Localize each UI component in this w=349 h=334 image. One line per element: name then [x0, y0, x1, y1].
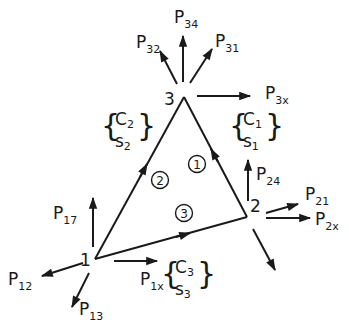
node-2-label: 2 — [250, 196, 261, 216]
force-P34-label: P34 — [174, 7, 198, 31]
side-2-c: C2 — [115, 109, 134, 131]
node-3-label: 3 — [164, 89, 175, 109]
brace-right-icon: } — [137, 108, 156, 143]
side-2-circle-label: 2 — [156, 174, 164, 188]
side-2-params: { C2 s2 } — [101, 108, 156, 153]
side-1-s: s1 — [243, 131, 259, 153]
brace-right-icon: } — [197, 256, 216, 291]
side-2-arrow-icon — [140, 164, 147, 177]
side-3-line — [95, 217, 247, 259]
force-P32-label: P32 — [136, 32, 160, 56]
force-P12-label: P12 — [8, 269, 32, 293]
force-P32-arrow-icon — [160, 51, 177, 84]
force-P2x-label: P2x — [315, 209, 339, 233]
node-1-label: 1 — [80, 250, 91, 270]
force-node2-down-arrow-icon — [253, 229, 275, 270]
element-force-diagram: 3 2 1 1 2 3 { C2 s2 } { C1 s1 } { C3 s3 … — [0, 0, 349, 334]
side-2-s: s2 — [115, 131, 131, 153]
side-3-s: s3 — [175, 279, 191, 301]
force-P13-label: P13 — [79, 299, 103, 323]
force-P24-label: P24 — [256, 164, 280, 188]
force-P31-arrow-icon — [190, 49, 212, 83]
diagram-svg: 3 2 1 1 2 3 { C2 s2 } { C1 s1 } { C3 s3 … — [0, 0, 349, 334]
brace-right-icon: } — [265, 108, 284, 143]
side-1-c: C1 — [243, 109, 262, 131]
force-P12-arrow-icon — [42, 263, 83, 276]
force-P21-label: P21 — [305, 184, 329, 208]
side-direction-arrows — [140, 149, 218, 237]
side-3-params: { C3 s3 } — [161, 256, 216, 301]
force-P17-label: P17 — [53, 203, 77, 227]
side-1-circle-label: 1 — [193, 158, 201, 172]
force-P21-arrow-icon — [266, 204, 298, 213]
side-1-params: { C1 s1 } — [229, 108, 284, 153]
side-3-arrow-icon — [176, 233, 190, 237]
side-3-circle-label: 3 — [180, 207, 188, 221]
side-number-circles: 1 2 3 — [152, 156, 206, 222]
force-P3x-label: P3x — [265, 83, 289, 107]
force-P31-label: P31 — [215, 31, 239, 55]
side-1-arrow-icon — [211, 149, 218, 162]
side-3-c: C3 — [175, 257, 194, 279]
